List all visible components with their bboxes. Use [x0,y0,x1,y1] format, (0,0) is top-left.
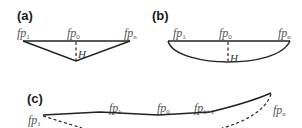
panel-c: (c) fp1 fpk fp0 fpk+1 fpn [27,91,286,128]
diagram-canvas: (a) fp1 fp0 fpn H (b) fp1 fp0 fpn H [0,0,302,128]
panel-a-height-label: H [77,48,87,60]
panel-c-point-n: fpn [273,103,286,118]
panel-b-point-n: fpn [278,26,291,41]
panel-a-point-n: fpn [124,26,137,41]
panel-a-point-0: fp0 [67,26,80,41]
panel-a-point-1: fp1 [17,26,30,41]
panel-c-point-1: fp1 [28,113,41,128]
panel-a-label: (a) [17,8,33,23]
panel-c-dashed-left [43,116,82,128]
panel-c-label: (c) [27,91,43,106]
panel-c-dashed-right [222,94,271,128]
panel-b-height-label: H [229,52,239,64]
panel-c-point-k1: fpk+1 [194,101,215,116]
panel-b: (b) fp1 fp0 fpn H [152,8,291,64]
panel-b-point-0: fp0 [219,26,232,41]
panel-a: (a) fp1 fp0 fpn H [17,8,137,61]
panel-b-point-1: fp1 [173,26,186,41]
panel-b-label: (b) [152,8,169,23]
panel-b-arc [168,41,290,62]
